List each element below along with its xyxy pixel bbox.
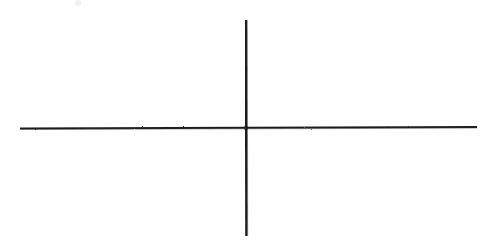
- intersection-point: [244, 126, 247, 129]
- drawing-canvas: [0, 0, 495, 243]
- cross-figure: [0, 0, 495, 243]
